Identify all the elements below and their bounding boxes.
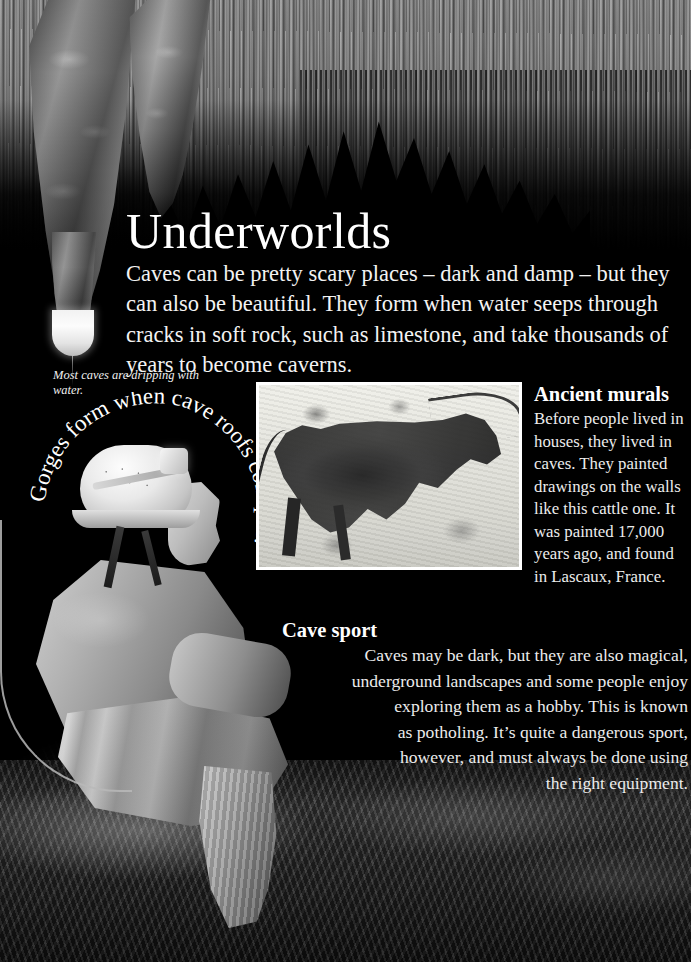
cave-sport-line: Caves may be dark, but they are also mag… <box>282 643 688 669</box>
ancient-murals-heading: Ancient murals <box>534 382 688 406</box>
section-ancient-murals: Ancient murals Before people lived in ho… <box>534 382 688 588</box>
stalactite-white-tip <box>52 310 94 356</box>
curved-caption-text: Gorges form when cave roofs collapse. <box>30 392 270 548</box>
bull-horns <box>428 386 522 449</box>
cave-sport-body: Caves may be dark, but they are also mag… <box>282 643 688 797</box>
page-root: Underworlds Caves can be pretty scary pl… <box>0 0 691 962</box>
cave-sport-line: as potholing. It’s quite a dangerous spo… <box>282 720 688 746</box>
cave-sport-line: however, and must always be done using <box>282 745 688 771</box>
page-title: Underworlds <box>126 206 391 256</box>
intro-paragraph: Caves can be pretty scary places – dark … <box>126 259 688 381</box>
caver-boot <box>196 766 278 928</box>
cave-painting-photo <box>256 382 522 570</box>
cave-sport-line: underground landscapes and some people e… <box>282 669 688 695</box>
cave-sport-heading: Cave sport <box>282 618 688 642</box>
curved-caption: Gorges form when cave roofs collapse. <box>30 392 270 648</box>
section-cave-sport: Cave sport Caves may be dark, but they a… <box>282 618 688 797</box>
bull-leg-front <box>282 497 301 556</box>
ancient-murals-body: Before people lived in houses, they live… <box>534 408 688 588</box>
cave-sport-line: exploring them as a hobby. This is known <box>282 694 688 720</box>
cave-sport-line: the right equipment. <box>282 771 688 797</box>
